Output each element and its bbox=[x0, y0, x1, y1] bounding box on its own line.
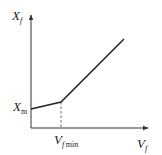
characteristic-curve bbox=[31, 39, 124, 109]
y-intercept-label: Xm bbox=[12, 99, 28, 116]
x-axis-label: Vf bbox=[137, 136, 149, 153]
y-axis-label: Xf bbox=[11, 8, 24, 25]
diagram-canvas: Xf Xm Vfmin Vf bbox=[0, 0, 162, 155]
breakpoint-label: Vfmin bbox=[54, 132, 78, 149]
